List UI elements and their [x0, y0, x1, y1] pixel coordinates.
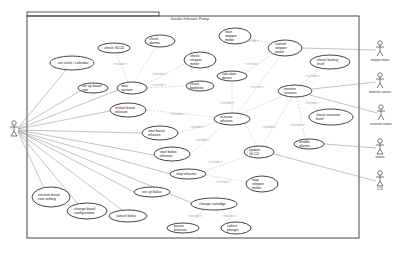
use-case-stop-stepper[interactable]: stop stepper motor	[246, 176, 278, 192]
svg-text:check GLCD: check GLCD	[104, 46, 125, 50]
svg-text:level: level	[317, 62, 325, 66]
use-case-start-system[interactable]: start system	[117, 82, 147, 94]
use-case-collect-plunger[interactable]: collect plunger	[221, 222, 251, 234]
svg-text:set clock / calendar: set clock / calendar	[58, 61, 90, 65]
svg-text:motor: motor	[225, 38, 235, 42]
svg-text:<<include>>: <<include>>	[195, 138, 210, 142]
svg-text:cancel bolus: cancel bolus	[116, 214, 136, 218]
svg-text:<<include>>: <<include>>	[208, 160, 223, 164]
actor-reservoir-sensor[interactable]: reservoir sensor	[370, 105, 392, 126]
svg-text:motor: motor	[275, 50, 285, 54]
svg-text:doses: doses	[222, 76, 232, 80]
svg-text:infusion: infusion	[160, 154, 172, 158]
use-case-start-bolus[interactable]: start bolus infusion	[154, 147, 190, 161]
use-case-enable-alarms[interactable]: enable alarms	[294, 139, 324, 149]
actor-alarms[interactable]: alarms	[375, 139, 385, 159]
svg-text:rate: rate	[82, 88, 88, 92]
svg-text:LCD: LCD	[377, 187, 384, 191]
actor-patient[interactable]	[10, 121, 18, 136]
use-case-start-basal[interactable]: start basal infusion	[142, 126, 178, 140]
svg-text:stop infusion: stop infusion	[176, 172, 196, 176]
stick-figure-icon	[376, 41, 384, 56]
svg-text:<<include>>: <<include>>	[220, 101, 235, 105]
svg-text:<<include>>: <<include>>	[190, 125, 205, 129]
svg-text:rate setting: rate setting	[38, 197, 56, 201]
actor-lcd[interactable]: LCD	[376, 171, 384, 191]
svg-text:batteries sensor: batteries sensor	[369, 90, 390, 94]
svg-text:<<include>>: <<include>>	[245, 62, 260, 66]
svg-text:configuration: configuration	[74, 211, 95, 215]
svg-text:motor: motor	[252, 186, 262, 190]
svg-text:<<include>>: <<include>>	[216, 180, 231, 184]
svg-text:reservoir sensor: reservoir sensor	[370, 122, 392, 126]
svg-text:set up bolus: set up bolus	[142, 190, 162, 194]
svg-text:<<include>>: <<include>>	[152, 83, 167, 87]
actor-batteries-sensor[interactable]: batteries sensor	[369, 73, 390, 94]
use-case-change-cartridge[interactable]: change cartridge	[191, 198, 237, 210]
actor-stepper-motor[interactable]: stepper motor	[371, 41, 390, 62]
use-case-activate-infusion[interactable]: activate infusion	[214, 113, 250, 125]
svg-text:alarms: alarms	[149, 41, 160, 45]
svg-text:<<include>>: <<include>>	[188, 214, 203, 218]
use-case-restart-basal[interactable]: restart basal infusion	[110, 103, 146, 117]
use-case-diagram: Insulin Infusion Pump	[0, 0, 405, 255]
svg-text:alarms: alarms	[299, 144, 310, 148]
svg-text:change cartridge: change cartridge	[199, 202, 226, 206]
svg-text:batteries: batteries	[190, 86, 204, 90]
use-case-retrieve-basal[interactable]: retrieve basal rate setting	[32, 187, 70, 207]
svg-text:infusion: infusion	[174, 228, 186, 232]
stick-figure-icon	[377, 105, 385, 120]
svg-text:<<include>>: <<include>>	[305, 74, 320, 78]
svg-text:<<include>>: <<include>>	[250, 85, 265, 89]
svg-text:<<include>>: <<include>>	[262, 125, 277, 129]
stick-figure-icon	[376, 139, 384, 154]
use-case-check-batteries[interactable]: check batteries	[186, 81, 214, 91]
use-case-monitor-sensors[interactable]: monitor sensors	[278, 85, 312, 97]
svg-text:sensors: sensors	[284, 91, 297, 95]
use-case-start-stepper[interactable]: start stepper motor	[219, 28, 251, 44]
use-case-set-clock[interactable]: set clock / calendar	[50, 56, 94, 70]
svg-text:<<include>>: <<include>>	[305, 101, 320, 105]
use-case-control-stepper[interactable]: control stepper motor	[268, 40, 302, 56]
use-case-setup-basal[interactable]: set up basal rate	[78, 83, 108, 93]
svg-text:plunger: plunger	[227, 228, 240, 232]
svg-text:level: level	[316, 117, 324, 121]
stick-figure-icon	[376, 171, 384, 186]
svg-text:<<include>>: <<include>>	[290, 123, 305, 127]
use-case-pause-infusion[interactable]: pause infusion	[167, 223, 199, 233]
svg-text:alarms: alarms	[375, 155, 385, 159]
stick-figure-icon	[10, 121, 18, 136]
use-case-check-reservoir[interactable]: check reservoir level	[309, 109, 353, 125]
svg-text:<<include>>: <<include>>	[152, 72, 167, 76]
svg-text:<<include>>: <<include>>	[222, 214, 237, 218]
use-case-check-battery-level[interactable]: check battery level	[310, 55, 350, 69]
use-case-check-alarms[interactable]: check alarms	[145, 35, 175, 47]
svg-text:infusion: infusion	[220, 119, 232, 123]
use-case-setup-bolus[interactable]: set up bolus	[134, 187, 170, 197]
use-case-stop-infusion[interactable]: stop infusion	[170, 169, 206, 179]
stick-figure-icon	[376, 73, 384, 88]
svg-text:system: system	[121, 88, 132, 92]
svg-text:GLCD: GLCD	[249, 152, 259, 156]
use-case-update-lcd[interactable]: update GLCD	[244, 146, 274, 158]
use-case-calculate-dose[interactable]: calculate doses	[217, 71, 247, 81]
svg-text:stepper motor: stepper motor	[371, 58, 390, 62]
system-boundary-tab	[27, 12, 159, 16]
use-case-change-basal-config[interactable]: change basal configuration	[67, 203, 107, 219]
use-case-check-stepper[interactable]: check stepper motor	[184, 52, 216, 68]
svg-text:infusion: infusion	[148, 133, 160, 137]
svg-text:<<include>>: <<include>>	[170, 112, 185, 116]
svg-text:motor: motor	[190, 62, 200, 66]
svg-text:infusion: infusion	[115, 110, 127, 114]
svg-text:<<include>>: <<include>>	[113, 62, 128, 66]
system-title: Insulin Infusion Pump	[171, 16, 210, 21]
use-case-cancel-bolus[interactable]: cancel bolus	[109, 210, 147, 222]
use-case-check-lcd[interactable]: check GLCD	[98, 43, 130, 53]
